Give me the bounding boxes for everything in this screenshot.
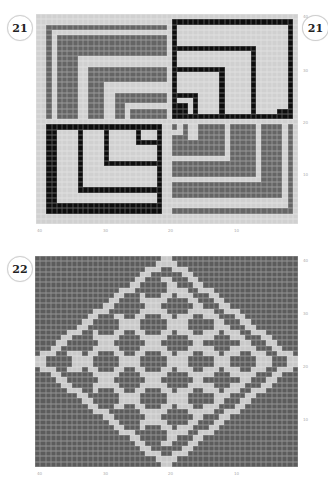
- x-tick: 20: [168, 228, 173, 233]
- x-tick: 30: [103, 228, 108, 233]
- y-tick: 20: [303, 364, 308, 369]
- y-tick: 30: [303, 311, 308, 316]
- y-tick: 20: [303, 120, 308, 125]
- grid-cell: [293, 219, 298, 224]
- y-tick: 40: [303, 14, 308, 19]
- badge-label: 22: [12, 263, 27, 276]
- grid-cell: [293, 462, 298, 467]
- pattern-21-chart-grid: [36, 14, 298, 224]
- y-tick: 40: [303, 258, 308, 263]
- x-tick: 40: [37, 471, 42, 476]
- x-tick: 30: [103, 471, 108, 476]
- y-tick: 10: [303, 172, 308, 177]
- y-tick: 30: [303, 68, 308, 73]
- x-tick: 10: [234, 471, 239, 476]
- y-tick: 10: [303, 417, 308, 422]
- x-tick: 10: [234, 228, 239, 233]
- pattern-22-chart-grid: [35, 256, 298, 467]
- badge-label: 21: [12, 22, 27, 35]
- x-tick: 20: [168, 471, 173, 476]
- x-tick: 40: [37, 228, 42, 233]
- pattern-21-number-badge: 21: [7, 15, 33, 41]
- pattern-22-number-badge: 22: [7, 256, 33, 282]
- badge-label: 21: [308, 22, 323, 35]
